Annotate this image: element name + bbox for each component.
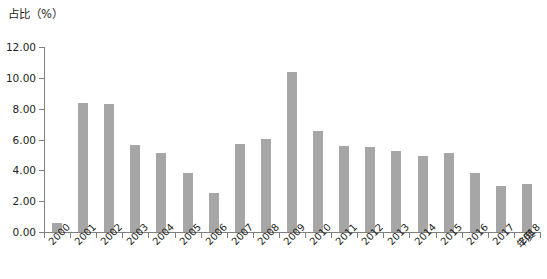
y-tick-label: 2.00 (0, 196, 36, 206)
x-tick-mark (409, 233, 410, 238)
x-tick-mark (227, 233, 228, 238)
bar (339, 146, 349, 232)
x-tick-mark (122, 233, 123, 238)
x-tick-mark (383, 233, 384, 238)
x-tick-mark (357, 233, 358, 238)
x-tick-mark (514, 233, 515, 238)
y-tick-label: 0.00 (0, 227, 36, 237)
x-tick-mark (175, 233, 176, 238)
x-tick-mark (279, 233, 280, 238)
plot-area (44, 47, 540, 232)
bar (313, 131, 323, 232)
x-tick-mark (70, 233, 71, 238)
y-axis-title: 占比（%） (8, 5, 63, 21)
bar (391, 151, 401, 232)
y-tick-label: 4.00 (0, 165, 36, 175)
bar (418, 156, 428, 232)
y-tick-label: 10.00 (0, 73, 36, 83)
bar (104, 104, 114, 232)
x-tick-mark (96, 233, 97, 238)
bar (261, 139, 271, 232)
x-tick-mark (436, 233, 437, 238)
bar (287, 72, 297, 232)
bar (444, 153, 454, 232)
x-tick-mark (462, 233, 463, 238)
bar-chart-figure: 占比（%） 0.002.004.006.008.0010.0012.00 200… (0, 0, 547, 279)
x-tick-mark (488, 233, 489, 238)
bar (156, 153, 166, 232)
y-tick-label: 8.00 (0, 104, 36, 114)
x-tick-mark (331, 233, 332, 238)
x-tick-mark (540, 233, 541, 238)
bar (78, 103, 88, 232)
x-tick-mark (253, 233, 254, 238)
x-tick-mark (305, 233, 306, 238)
y-tick-label: 12.00 (0, 42, 36, 52)
bar (130, 145, 140, 232)
x-tick-mark (201, 233, 202, 238)
x-tick-mark (44, 233, 45, 238)
bar (235, 144, 245, 232)
bar (365, 147, 375, 232)
x-tick-mark (148, 233, 149, 238)
y-tick-label: 6.00 (0, 135, 36, 145)
